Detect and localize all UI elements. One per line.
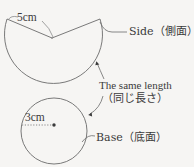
side-label: Side（側面） — [129, 26, 194, 38]
slant-length-label: 5cm — [17, 11, 37, 23]
base-center-dot — [52, 123, 55, 126]
sector-shape — [4, 19, 102, 83]
same-length-label-jp: （同じ長さ） — [99, 93, 172, 105]
same-length-label-en: The same length — [99, 79, 172, 91]
cone-net-figure: 5cm 3cm Side（側面） Base（底面） The same lengt… — [0, 0, 194, 167]
base-circle — [21, 98, 87, 164]
same-length-label: The same length （同じ長さ） — [99, 80, 172, 104]
same-length-arrowhead-upper — [95, 61, 99, 65]
base-radius-label: 3cm — [25, 111, 45, 123]
base-label-leader-line — [82, 136, 95, 142]
base-label: Base（底面） — [96, 132, 167, 144]
same-length-arrowhead-lower — [88, 113, 92, 117]
same-length-arrow-upper — [97, 63, 104, 79]
